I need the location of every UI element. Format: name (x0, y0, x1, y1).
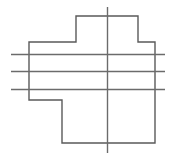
technical-drawing-canvas (0, 0, 174, 160)
canvas-background (0, 0, 174, 160)
drawing-svg (0, 0, 174, 160)
